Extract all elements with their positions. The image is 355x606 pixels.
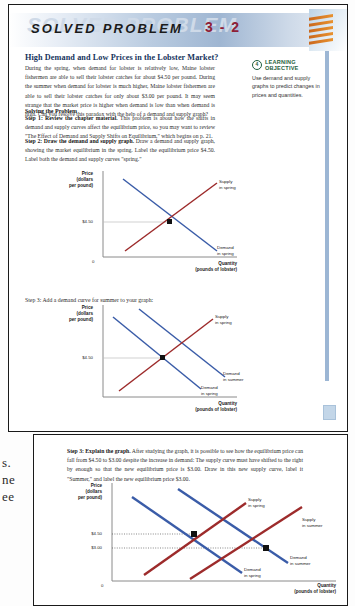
chart1-y-axis-label: Price (dollars per pound) — [57, 171, 93, 190]
chart2-demand-spring-label: Demand in spring — [201, 385, 218, 397]
background-text-fragment: ee — [2, 489, 15, 505]
background-text-fragment: s. — [2, 455, 11, 471]
problem-number: 3 - 2 — [205, 19, 241, 35]
chart1-supply-label: Supply in spring — [219, 179, 236, 191]
solved-problem-page: SOLVED PROBLEM SOLVED PROBLEM 3 - 2 High… — [8, 4, 348, 432]
chart2-y-axis-label: Price (dollars per pound) — [57, 305, 93, 324]
chart2-x-axis-label: Quantity (pounds of lobster) — [181, 401, 237, 413]
step2-paragraph: Step 2: Draw the demand and supply graph… — [25, 137, 215, 165]
sidebar-chip — [323, 405, 336, 420]
sidebar-rule — [325, 51, 329, 381]
learning-objective-header: 4 LEARNING OBJECTIVE — [252, 59, 326, 71]
chart-both-shifts: Price (dollars per pound) $4.50 $3.00 0 … — [106, 483, 336, 599]
learning-objective-title: LEARNING OBJECTIVE — [265, 59, 326, 71]
step3-page: Step 3: Explain the graph. After studyin… — [33, 434, 348, 606]
chart1-origin: 0 — [92, 259, 94, 264]
background-text-fragment: ne — [2, 472, 15, 488]
lobster-boat-photo — [309, 9, 347, 51]
chart1-plot — [97, 171, 237, 271]
chart1-ytick-450: $4.50 — [75, 219, 93, 224]
chart3-plot — [106, 483, 336, 599]
chart3-supply-spring-label: Supply in spring — [248, 497, 265, 509]
chart2-ytick-450: $4.50 — [75, 355, 93, 360]
step3-paragraph: Step 3: Explain the graph. After studyin… — [67, 447, 303, 484]
chart2-demand-summer-label: Demand in summer — [223, 371, 244, 383]
add-demand-caption: Step 3: Add a demand curve for summer to… — [25, 297, 153, 303]
objective-number-badge: 4 — [252, 60, 262, 70]
learning-objective-text: Use demand and supply graphs to predict … — [252, 74, 326, 101]
chart3-ytick-450: $4.50 — [82, 531, 102, 536]
chart3-y-axis-label: Price (dollars per pound) — [64, 483, 102, 502]
chart-summer-demand-added: Price (dollars per pound) $4.50 Supply i… — [97, 305, 237, 410]
step1-label: Step 1: Review the chapter material. — [25, 115, 118, 121]
learning-objective-box: 4 LEARNING OBJECTIVE Use demand and supp… — [252, 59, 326, 100]
chart3-supply-summer-label: Supply in summer — [302, 517, 323, 529]
chart1-x-axis-label: Quantity (pounds of lobster) — [181, 261, 237, 273]
chart3-ytick-300: $3.00 — [82, 545, 102, 550]
step3-label: Step 3: Explain the graph. — [67, 448, 131, 454]
step2-label: Step 2: Draw the demand and supply graph… — [25, 138, 134, 144]
chart2-supply-label: Supply in spring — [215, 314, 232, 326]
page-title: SOLVED PROBLEM — [31, 21, 183, 36]
chart3-demand-spring-label: Demand in spring — [244, 567, 261, 579]
chart3-x-axis-label: Quantity (pounds of lobster) — [278, 583, 336, 595]
chart-spring-equilibrium: Price (dollars per pound) $4.50 0 Supply… — [97, 171, 237, 271]
chart3-origin: 0 — [101, 583, 103, 588]
article-headline: High Demand and Low Prices in the Lobste… — [25, 53, 220, 62]
chart3-demand-summer-label: Demand in summer — [290, 555, 311, 567]
chart1-demand-label: Demand in spring — [217, 245, 234, 257]
